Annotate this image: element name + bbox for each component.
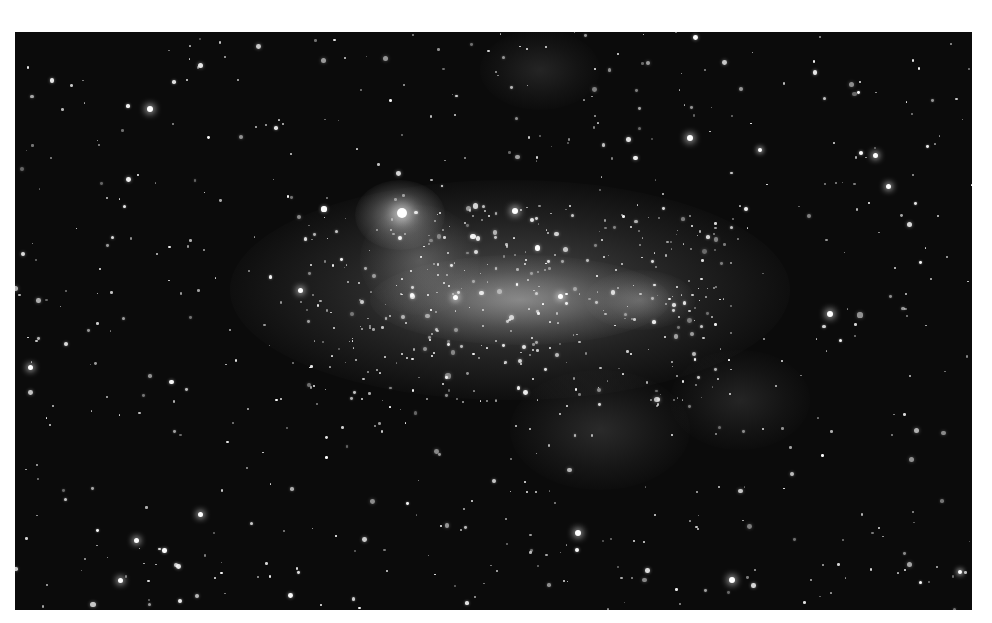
star [578,341,581,344]
star [324,217,325,218]
star [502,56,505,59]
star [402,194,405,197]
nebula-glow [670,350,810,450]
star [825,239,828,242]
star [437,263,439,265]
star [762,428,764,430]
star [423,347,428,352]
bright-star [886,184,891,189]
star [720,348,722,350]
star [405,422,406,423]
star [571,214,574,217]
star [912,59,915,62]
star [199,38,201,40]
star [91,487,94,490]
star [763,338,765,340]
star [460,529,462,531]
star [439,212,441,214]
star [548,267,551,270]
star [443,282,445,284]
star [445,523,449,527]
star [125,575,128,578]
star [369,250,370,251]
star [263,324,266,327]
star [611,157,613,159]
star [709,131,711,133]
star [429,339,431,341]
star [290,153,292,155]
star [383,56,388,61]
star [638,230,640,232]
star [186,79,188,81]
star [426,398,428,400]
star [420,256,422,258]
star [226,441,228,443]
star [398,236,402,240]
nebula-glow [230,180,790,400]
star [536,156,538,158]
star [450,264,453,267]
star [665,303,667,305]
star [235,359,237,361]
star [544,269,546,271]
star [595,301,598,304]
star [428,555,429,556]
star [723,298,724,299]
star [894,267,896,269]
star [672,303,676,307]
star [633,318,636,321]
star [369,327,371,329]
star [403,84,404,85]
star [936,566,938,568]
star [537,312,540,315]
star [370,499,375,504]
star [381,326,384,329]
star [641,62,644,65]
star [15,286,18,291]
star [854,323,857,326]
star [631,577,633,579]
star [435,311,437,313]
star [535,292,538,295]
star [97,140,98,141]
star [712,386,714,388]
star [905,293,907,295]
star [436,292,437,293]
star [783,488,784,489]
star [346,264,348,266]
star [538,205,541,208]
star [819,36,821,38]
star [427,294,429,296]
star [751,583,756,588]
star [538,223,540,225]
star [239,135,243,139]
star [646,381,648,383]
star [372,274,376,278]
star [138,412,141,415]
star [698,288,699,289]
star [634,220,637,223]
star [121,129,124,132]
bright-star [198,512,203,517]
star [207,136,210,139]
star [723,243,726,246]
star [386,570,388,572]
star [455,95,458,98]
star [355,359,357,361]
star [599,231,601,233]
star [36,298,41,303]
star [535,245,540,250]
star [654,397,659,402]
star [84,102,86,104]
star [617,53,618,54]
star [307,320,310,323]
star [742,430,745,433]
star [522,345,526,349]
star [536,160,537,161]
star [437,274,439,276]
star [189,58,190,59]
star [536,453,537,454]
star [545,46,548,49]
star [464,270,465,271]
star [65,290,67,292]
